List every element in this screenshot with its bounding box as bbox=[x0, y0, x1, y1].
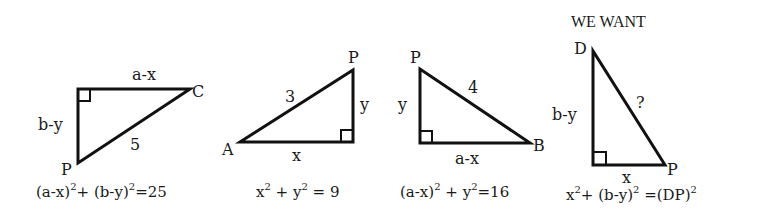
side-label-y: y bbox=[359, 95, 369, 114]
equation-4: x2+ (b-y)2 =(DP)2 bbox=[566, 184, 697, 204]
triangle-4: WE WANT D b-y ? x P x2+ (b-y)2 =(DP)2 bbox=[552, 13, 697, 204]
side-label-b-y: b-y bbox=[38, 115, 63, 134]
side-label-a-x: a-x bbox=[132, 65, 156, 84]
vertex-label-p: P bbox=[410, 48, 421, 67]
vertex-label-a: A bbox=[221, 140, 234, 159]
triangle-2: P 3 y A x x2 + y2 = 9 bbox=[221, 48, 369, 201]
triangle-1: a-x C b-y 5 P (a-x)2+ (b-y)2=25 bbox=[36, 65, 204, 201]
triangle-4-shape bbox=[593, 51, 665, 165]
hypotenuse-label-unknown: ? bbox=[636, 93, 645, 112]
side-label-x: x bbox=[622, 168, 631, 187]
right-angle-marker bbox=[341, 130, 353, 142]
triangle-3: P 4 y a-x B (a-x)2 + y2=16 bbox=[397, 48, 545, 201]
equation-1: (a-x)2+ (b-y)2=25 bbox=[36, 181, 167, 201]
vertex-label-p: P bbox=[667, 160, 678, 179]
pythagorean-diagram: a-x C b-y 5 P (a-x)2+ (b-y)2=25 P 3 y A … bbox=[0, 0, 767, 223]
vertex-label-p: P bbox=[348, 48, 359, 67]
vertex-label-b: B bbox=[533, 136, 545, 155]
right-angle-marker bbox=[593, 152, 606, 165]
side-label-x: x bbox=[292, 146, 301, 165]
triangle-2-shape bbox=[240, 70, 353, 142]
vertex-label-p: P bbox=[61, 160, 72, 179]
equation-3: (a-x)2 + y2=16 bbox=[400, 181, 509, 201]
hypotenuse-label-5: 5 bbox=[130, 135, 140, 154]
right-angle-marker bbox=[420, 131, 432, 143]
hypotenuse-label-3: 3 bbox=[285, 87, 295, 106]
side-label-y: y bbox=[397, 95, 407, 114]
vertex-label-d: D bbox=[574, 39, 587, 58]
hypotenuse-label-4: 4 bbox=[468, 78, 478, 97]
heading-we-want: WE WANT bbox=[571, 13, 646, 30]
vertex-label-c: C bbox=[192, 82, 204, 101]
right-angle-marker bbox=[78, 89, 90, 101]
side-label-b-y: b-y bbox=[552, 105, 577, 124]
side-label-a-x: a-x bbox=[455, 149, 479, 168]
equation-2: x2 + y2 = 9 bbox=[256, 181, 339, 201]
